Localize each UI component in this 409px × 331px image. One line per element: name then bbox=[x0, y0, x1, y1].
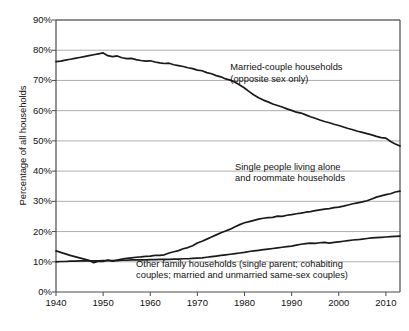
x-axis-tick-label: 2000 bbox=[319, 297, 359, 308]
married-couple-annotation-line-1: Married-couple households bbox=[230, 62, 342, 73]
other-family-annotation-line-1: Other family households (single parent; … bbox=[136, 259, 348, 270]
married-couple-annotation-line-2: (opposite sex only) bbox=[230, 74, 342, 85]
x-axis-tick-label: 1960 bbox=[130, 297, 170, 308]
single-people-annotation-line-2: and roommate households bbox=[235, 173, 345, 184]
x-axis-tick-label: 2010 bbox=[366, 297, 406, 308]
y-axis-tick-label: 0% bbox=[18, 287, 52, 297]
x-axis-tick-label: 1990 bbox=[272, 297, 312, 308]
x-axis-tick-label: 1950 bbox=[83, 297, 123, 308]
other-family-annotation-line-2: couples; married and unmarried same-sex … bbox=[136, 270, 348, 281]
y-axis-tick-labels: 0%10%20%30%40%50%60%70%80%90% bbox=[16, 0, 52, 331]
y-axis-tick-label: 90% bbox=[18, 15, 52, 25]
single-people-annotation: Single people living aloneand roommate h… bbox=[235, 162, 345, 185]
x-axis-tick-label: 1980 bbox=[224, 297, 264, 308]
y-axis-tick-label: 80% bbox=[18, 45, 52, 55]
series-line-2 bbox=[56, 191, 400, 263]
series-line-1 bbox=[56, 53, 400, 146]
chart-figure: Percentage of all households 0%10%20%30%… bbox=[0, 0, 409, 331]
single-people-annotation-line-1: Single people living alone bbox=[235, 162, 345, 173]
x-axis-tick-label: 1940 bbox=[36, 297, 76, 308]
y-axis-tick-label: 50% bbox=[18, 136, 52, 146]
y-axis-tick-label: 10% bbox=[18, 257, 52, 267]
married-couple-annotation: Married-couple households(opposite sex o… bbox=[230, 62, 342, 85]
y-axis-tick-label: 40% bbox=[18, 166, 52, 176]
y-axis-tick-label: 70% bbox=[18, 75, 52, 85]
y-axis-tick-label: 20% bbox=[18, 227, 52, 237]
other-family-annotation: Other family households (single parent; … bbox=[136, 259, 348, 282]
y-axis-tick-label: 60% bbox=[18, 106, 52, 116]
x-axis-tick-label: 1970 bbox=[177, 297, 217, 308]
y-axis-tick-label: 30% bbox=[18, 196, 52, 206]
